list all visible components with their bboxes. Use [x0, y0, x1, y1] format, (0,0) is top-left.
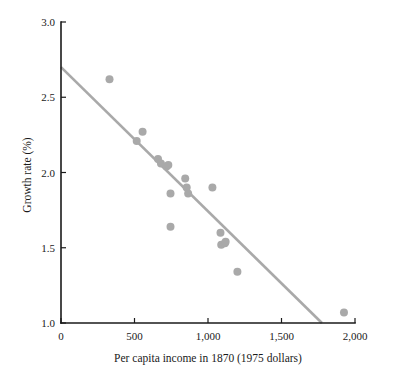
data-point — [216, 229, 224, 237]
x-tick-label: 0 — [58, 330, 64, 342]
data-point — [233, 268, 241, 276]
x-tick-label: 1,000 — [196, 330, 221, 342]
data-point — [184, 190, 192, 198]
data-point — [222, 238, 230, 246]
data-point — [167, 223, 175, 231]
scatter-chart: 1.01.52.02.53.0 05001,0001,5002,000 Per … — [0, 0, 396, 377]
data-point — [167, 190, 175, 198]
y-tick-label: 2.0 — [41, 167, 55, 179]
y-axis-title: Growth rate (%) — [21, 137, 34, 213]
y-tick-label: 1.0 — [41, 317, 55, 329]
x-tick-label: 2,000 — [343, 330, 368, 342]
x-tick-label: 500 — [126, 330, 143, 342]
data-point — [340, 308, 348, 316]
data-point — [139, 128, 147, 136]
data-point — [208, 184, 216, 192]
y-ticks-group: 1.01.52.02.53.0 — [41, 16, 66, 329]
data-point — [181, 175, 189, 183]
data-points-group — [106, 75, 348, 316]
chart-canvas: 1.01.52.02.53.0 05001,0001,5002,000 Per … — [0, 0, 396, 377]
y-tick-label: 1.5 — [41, 242, 55, 254]
data-point — [106, 75, 114, 83]
data-point — [133, 137, 141, 145]
axes-group — [61, 22, 355, 323]
y-tick-label: 2.5 — [41, 91, 55, 103]
x-axis-title: Per capita income in 1870 (1975 dollars) — [114, 352, 302, 365]
data-point — [164, 161, 172, 169]
y-tick-label: 3.0 — [41, 16, 55, 28]
x-tick-label: 1,500 — [269, 330, 294, 342]
